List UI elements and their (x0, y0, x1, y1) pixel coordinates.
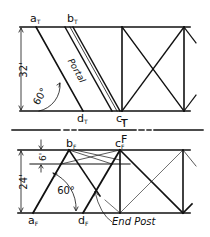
front-view (18, 140, 196, 222)
end-post-leader (95, 192, 112, 222)
fold-label-t: T (120, 117, 128, 130)
label-a-top: aT (30, 12, 41, 25)
label-d-top: dT (77, 112, 88, 125)
label-a-front: aF (28, 214, 39, 227)
dimension-32-label: 32' (18, 62, 29, 77)
truss-diagram: aT bT dT cT 32' 60° Portal T F bF cF aF … (0, 0, 210, 237)
dimension-6-label: 6' (38, 153, 48, 161)
end-post-label: End Post (112, 216, 157, 227)
angle-60-front-label: 60° (57, 185, 75, 196)
label-d-front: dF (78, 214, 89, 227)
label-b-front: bF (66, 137, 77, 150)
end-post (83, 150, 120, 213)
dimension-24-label: 24' (18, 174, 29, 189)
top-view (19, 27, 196, 111)
angle-60-top-label: 60° (31, 86, 49, 107)
label-b-top: bT (67, 12, 78, 25)
